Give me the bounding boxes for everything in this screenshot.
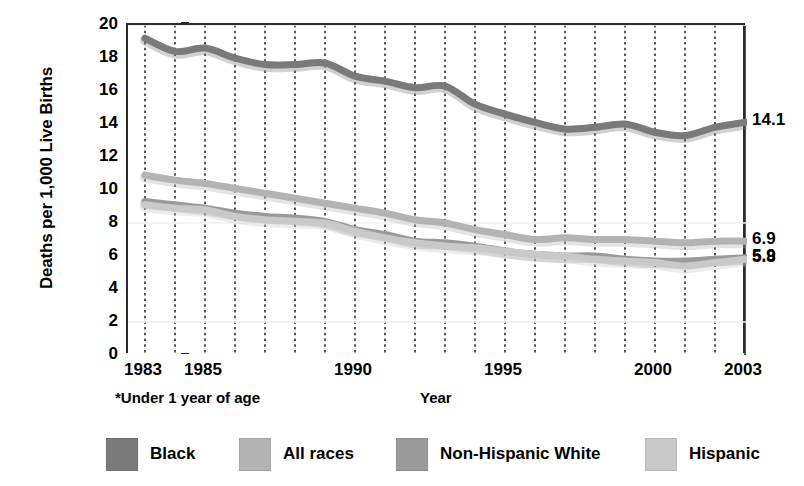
y-tick-label: 0 (84, 345, 118, 362)
footnote-text: *Under 1 year of age (115, 389, 260, 406)
x-axis-tick-labels: 198319851990199520002003 (0, 360, 804, 386)
x-tick-label: 1990 (334, 360, 372, 380)
legend-item-non-hispanic-white[interactable]: Non-Hispanic White (396, 436, 601, 472)
legend-label: All races (283, 444, 354, 464)
y-tick-label: 14 (84, 114, 118, 131)
legend-swatch (239, 438, 271, 471)
legend-swatch (106, 438, 138, 471)
x-tick-label: 1995 (484, 360, 522, 380)
series-canvas (128, 25, 747, 355)
x-tick-label: 2000 (634, 360, 672, 380)
legend-item-all-races[interactable]: All races (239, 436, 354, 472)
x-axis-title: Year (420, 389, 452, 406)
y-tick-label: 18 (84, 48, 118, 65)
legend-label: Non-Hispanic White (440, 444, 601, 464)
legend-item-black[interactable]: Black (106, 436, 195, 472)
series-line (145, 38, 745, 136)
legend-label: Hispanic (689, 444, 760, 464)
y-axis-title: Deaths per 1,000 Live Births (37, 13, 57, 343)
chart-figure: Deaths per 1,000 Live Births 02468101214… (0, 0, 804, 486)
y-tick-label: 10 (84, 180, 118, 197)
x-tick-label: 1983 (124, 360, 162, 380)
y-tick-label: 2 (84, 312, 118, 329)
y-tick-label: 16 (84, 81, 118, 98)
legend-label: Black (150, 444, 195, 464)
y-tick-label: 12 (84, 147, 118, 164)
end-label-black: 14.1 (752, 110, 785, 130)
y-tick-label: 8 (84, 213, 118, 230)
plot-area (126, 23, 745, 353)
chart-legend: BlackAll racesNon-Hispanic WhiteHispanic (0, 436, 804, 478)
end-label-hispanic: 5.8 (752, 247, 776, 267)
y-axis-tick-labels: 02468101214161820 (62, 0, 118, 486)
legend-item-hispanic[interactable]: Hispanic (645, 436, 760, 472)
legend-swatch (645, 438, 677, 471)
x-tick-label: 1985 (184, 360, 222, 380)
legend-swatch (396, 438, 428, 471)
y-tick-label: 4 (84, 279, 118, 296)
y-tick-label: 20 (84, 15, 118, 32)
y-tick-label: 6 (84, 246, 118, 263)
x-tick-label: 2003 (724, 360, 762, 380)
